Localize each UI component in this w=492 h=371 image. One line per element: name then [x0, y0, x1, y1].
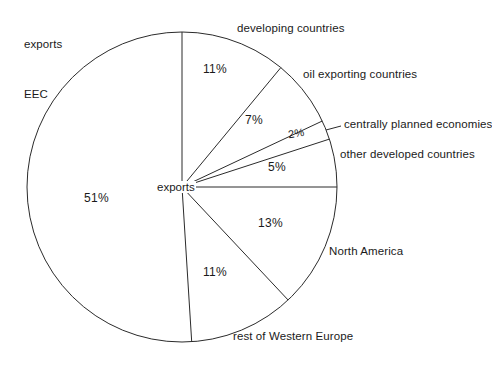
label-north-america: North America	[329, 245, 403, 258]
pct-developing-countries: 11%	[203, 62, 227, 76]
leader-line-centrally-planned	[326, 126, 341, 130]
label-developing-countries: developing countries	[237, 22, 345, 35]
annotation-exports-top-left: exports	[24, 38, 62, 51]
pct-north-america: 13%	[258, 216, 283, 230]
slice-divider-11	[182, 68, 281, 188]
pct-eec: 51%	[84, 191, 109, 205]
label-other-developed-countries: other developed countries	[340, 148, 475, 161]
label-oil-exporting-countries: oil exporting countries	[303, 68, 417, 81]
pct-oil-exporting-countries: 7%	[245, 113, 263, 127]
slice-divider-20	[182, 139, 329, 187]
pct-centrally-planned-economies: 2%	[287, 126, 305, 140]
label-eec: EEC	[24, 88, 48, 101]
pct-rest-of-western-europe: 11%	[203, 265, 227, 279]
annotation-exports-center: exports	[156, 181, 196, 193]
label-rest-of-western-europe: rest of Western Europe	[233, 330, 353, 343]
slice-divider-38	[182, 187, 288, 300]
label-centrally-planned-economies: centrally planned economies	[344, 118, 492, 131]
slice-divider-49	[182, 187, 192, 342]
pct-other-developed-countries: 5%	[268, 160, 286, 174]
